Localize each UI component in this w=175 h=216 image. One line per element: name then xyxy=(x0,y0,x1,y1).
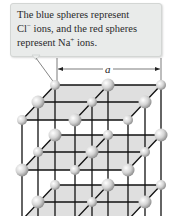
na-ion-sphere xyxy=(123,115,133,125)
na-ion-sphere xyxy=(103,130,113,140)
cl-ion-sphere xyxy=(155,129,168,142)
cl-ion-sphere xyxy=(16,164,29,177)
na-ion-sphere xyxy=(17,115,27,125)
cl-ion-sphere xyxy=(122,164,135,177)
cl-ion-sphere xyxy=(102,179,115,192)
callout-pointer xyxy=(32,55,55,84)
na-ion-sphere xyxy=(87,197,97,207)
cl-ion-sphere xyxy=(139,96,152,109)
na-ion-sphere xyxy=(33,147,43,157)
na-ion-sphere xyxy=(50,80,60,90)
cl-ion-sphere xyxy=(49,129,62,142)
na-ion-sphere xyxy=(156,180,166,190)
na-ion-sphere xyxy=(87,97,97,107)
cl-ion-sphere xyxy=(69,114,82,127)
na-ion-sphere xyxy=(70,165,80,175)
na-ion-sphere xyxy=(156,80,166,90)
nacl-lattice-diagram xyxy=(0,0,175,216)
cl-ion-sphere xyxy=(102,79,115,92)
cl-ion-sphere xyxy=(139,196,152,209)
cl-ion-sphere xyxy=(32,196,45,209)
cl-ion-sphere xyxy=(86,146,99,159)
cl-ion-sphere xyxy=(32,96,45,109)
lattice-constant-label: a xyxy=(103,64,113,75)
na-ion-sphere xyxy=(140,147,150,157)
na-ion-sphere xyxy=(50,180,60,190)
